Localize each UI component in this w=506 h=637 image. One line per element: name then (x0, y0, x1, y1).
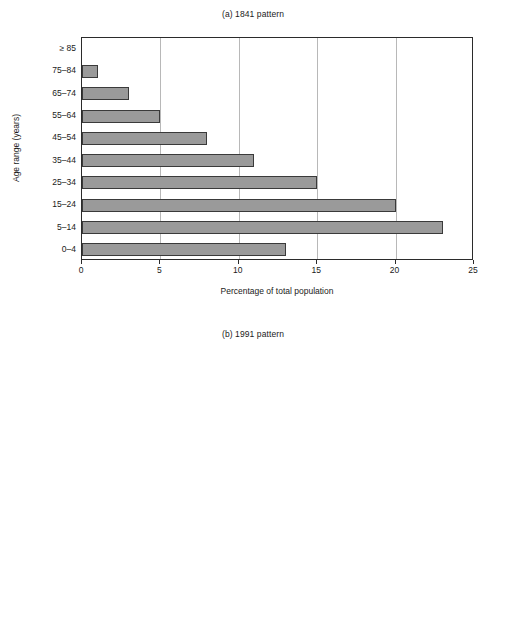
x-tick-label: 25 (468, 265, 477, 275)
x-tick-mark (81, 260, 82, 264)
x-tick-mark (316, 260, 317, 264)
x-tick-label: 20 (390, 265, 399, 275)
y-tick-label: 0–4 (11, 244, 81, 254)
bar-row (82, 194, 396, 216)
y-tick-label: ≥ 85 (11, 43, 81, 53)
y-tick-label: 5–14 (11, 222, 81, 232)
bar-row (82, 60, 98, 82)
bar-row (82, 239, 286, 261)
bar-1841-45–54 (82, 132, 207, 145)
x-tick-mark (395, 260, 396, 264)
y-tick-label: 35–44 (11, 155, 81, 165)
x-axis-ticks-1841: 0510152025 (81, 260, 473, 282)
y-tick-label: 65–74 (11, 88, 81, 98)
x-tick-label: 0 (79, 265, 84, 275)
bar-1841-55–64 (82, 110, 160, 123)
x-axis-title-1841: Percentage of total population (81, 286, 473, 296)
x-tick-mark (238, 260, 239, 264)
y-tick-label: 15–24 (11, 199, 81, 209)
chart-panel-1841: (a) 1841 pattern Age range (years) ≥ 857… (0, 0, 506, 320)
bar-1841-65–74 (82, 87, 129, 100)
x-tick-label: 10 (233, 265, 242, 275)
bar-1841-15–24 (82, 199, 396, 212)
bar-1841-35–44 (82, 154, 254, 167)
bar-1841-5–14 (82, 221, 443, 234)
x-tick-mark (159, 260, 160, 264)
bar-1841-0–4 (82, 243, 286, 256)
y-tick-label: 45–54 (11, 132, 81, 142)
population-pyramid-figure: (a) 1841 pattern Age range (years) ≥ 857… (0, 0, 506, 637)
bar-series-1841 (82, 38, 472, 259)
x-tick-label: 5 (157, 265, 162, 275)
y-tick-label: 25–34 (11, 177, 81, 187)
y-tick-labels-1841: ≥ 8575–8465–7455–6445–5435–4425–3415–245… (0, 37, 81, 260)
panel-title-1841: (a) 1841 pattern (0, 9, 506, 19)
y-tick-label: 75–84 (11, 65, 81, 75)
bar-row (82, 172, 317, 194)
bar-row (82, 127, 207, 149)
bar-row (82, 150, 254, 172)
y-tick-label: 55–64 (11, 110, 81, 120)
chart-panel-1991: (b) 1991 pattern Age range (years) ≥ 857… (0, 320, 506, 637)
bar-row (82, 216, 443, 238)
x-tick-mark (473, 260, 474, 264)
panel-title-1991: (b) 1991 pattern (0, 329, 506, 339)
bar-1841-25–34 (82, 176, 317, 189)
bar-row (82, 83, 129, 105)
bar-row (82, 105, 160, 127)
plot-area-1841 (81, 37, 473, 260)
bar-1841-75–84 (82, 65, 98, 78)
x-tick-label: 15 (311, 265, 320, 275)
